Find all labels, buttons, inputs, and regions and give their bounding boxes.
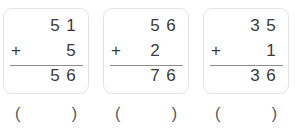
- sum-tens-digit-1: 5: [47, 66, 63, 86]
- addend-row-top-1: 5 1: [11, 16, 79, 41]
- plus-operator-1: +: [11, 41, 29, 61]
- paren-close-1: ): [72, 106, 77, 122]
- sum-ones-digit-3: 6: [263, 66, 279, 86]
- addend-row-bottom-1: + 5: [11, 41, 79, 66]
- addend1-ones-digit-3: 5: [263, 16, 279, 36]
- sum-rule-2: [110, 65, 183, 66]
- sum-rule-1: [10, 65, 83, 66]
- sum-row-3: 3 6: [211, 66, 279, 90]
- addend-row-bottom-2: + 2: [111, 41, 179, 66]
- addend1-ones-digit-2: 6: [163, 16, 179, 36]
- addition-worksheet: 5 1 + 5 5 6 ( ): [0, 0, 295, 137]
- answer-parens-2[interactable]: ( ): [103, 100, 189, 128]
- sum-ones-digit-1: 6: [63, 66, 79, 86]
- sum-row-1: 5 6: [11, 66, 79, 90]
- paren-open-1: (: [15, 106, 20, 122]
- problem-box-2: 5 6 + 2 7 6: [103, 8, 189, 94]
- paren-close-3: ): [272, 106, 277, 122]
- addend1-tens-digit-3: 3: [247, 16, 263, 36]
- sum-tens-digit-3: 3: [247, 66, 263, 86]
- plus-operator-2: +: [111, 41, 129, 61]
- answer-parens-3[interactable]: ( ): [203, 100, 289, 128]
- problem-box-3: 3 5 + 1 3 6: [203, 8, 289, 94]
- sum-rule-3: [210, 65, 283, 66]
- sum-ones-digit-2: 6: [163, 66, 179, 86]
- addend1-ones-digit-1: 1: [63, 16, 79, 36]
- addend2-ones-digit-3: 1: [263, 41, 279, 61]
- addend1-tens-digit-2: 5: [147, 16, 163, 36]
- vertical-sum-1: 5 1 + 5 5 6: [4, 9, 88, 93]
- addend2-tens-digit-2: 2: [147, 41, 163, 61]
- paren-close-2: ): [172, 106, 177, 122]
- addend-row-top-2: 5 6: [111, 16, 179, 41]
- problem-group-3: 3 5 + 1 3 6 ( ): [200, 0, 295, 137]
- sum-row-2: 7 6: [111, 66, 179, 90]
- addend-row-top-3: 3 5: [211, 16, 279, 41]
- problem-group-1: 5 1 + 5 5 6 ( ): [0, 0, 95, 137]
- vertical-sum-3: 3 5 + 1 3 6: [204, 9, 288, 93]
- sum-tens-digit-2: 7: [147, 66, 163, 86]
- addend1-tens-digit-1: 5: [47, 16, 63, 36]
- addend-row-bottom-3: + 1: [211, 41, 279, 66]
- paren-open-3: (: [215, 106, 220, 122]
- problem-group-2: 5 6 + 2 7 6 ( ): [100, 0, 195, 137]
- addend2-ones-digit-1: 5: [63, 41, 79, 61]
- problem-box-1: 5 1 + 5 5 6: [3, 8, 89, 94]
- plus-operator-3: +: [211, 41, 229, 61]
- paren-open-2: (: [115, 106, 120, 122]
- vertical-sum-2: 5 6 + 2 7 6: [104, 9, 188, 93]
- answer-parens-1[interactable]: ( ): [3, 100, 89, 128]
